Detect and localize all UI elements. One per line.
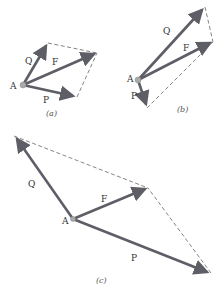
label-q: Q [25,56,32,66]
panel-c: A Q F P (c) [14,136,211,285]
label-q: Q [28,179,35,189]
panel-b: A Q F P (b) [126,7,213,114]
label-p: P [131,91,137,101]
vector-q-arrow [17,139,73,219]
point-a [20,82,26,88]
dashed-q-to-f [48,43,97,53]
panel-a: A Q F P (a) [9,43,97,118]
label-a: A [126,74,134,84]
caption-a: (a) [46,109,57,118]
vector-q-arrow [138,10,202,80]
vector-diagram: A Q F P (a) A Q F P (b) A Q F P (c) [0,0,222,289]
label-a: A [61,216,69,226]
dashed-p-to-f [147,42,213,108]
label-f: F [101,194,107,204]
vector-p-arrow [138,80,146,104]
dashed-q-to-f [205,7,213,42]
point-a [71,217,76,222]
label-p: P [43,95,49,105]
vector-f-arrow [138,43,210,80]
vector-p-arrow [73,219,207,272]
label-q: Q [163,26,170,36]
caption-c: (c) [96,276,107,285]
point-a [135,77,141,83]
label-f: F [183,43,189,53]
label-a: A [9,81,17,91]
label-f: F [52,57,58,67]
caption-b: (b) [177,105,188,114]
vector-f-arrow [73,189,145,219]
label-p: P [131,253,137,263]
